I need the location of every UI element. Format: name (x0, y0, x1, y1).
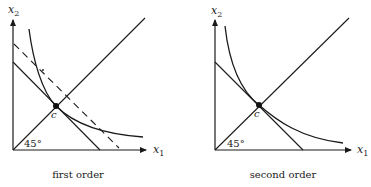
panel-caption: first order (52, 169, 104, 180)
y-axis-label: x2 (8, 3, 19, 18)
panel-caption: second order (250, 169, 317, 180)
y-axis-label: x2 (211, 4, 222, 19)
45-degree-line (215, 18, 349, 150)
indifference-curve (29, 29, 143, 137)
diagram-canvas: c 45° x2 x1 first order c 45° x2 x1 seco… (0, 0, 371, 187)
small-dot-marker (42, 69, 44, 71)
panel-second-order: c 45° x2 x1 second order (211, 4, 368, 180)
45-degree-line (13, 18, 145, 150)
point-c-label: c (51, 109, 57, 120)
panel-first-order: c 45° x2 x1 first order (8, 3, 164, 180)
x-axis-label: x1 (357, 143, 368, 158)
angle-label: 45° (24, 138, 42, 149)
angle-label: 45° (227, 138, 245, 149)
x-axis-label: x1 (153, 143, 164, 158)
point-c-label: c (254, 108, 260, 119)
indifference-curve (225, 26, 343, 143)
